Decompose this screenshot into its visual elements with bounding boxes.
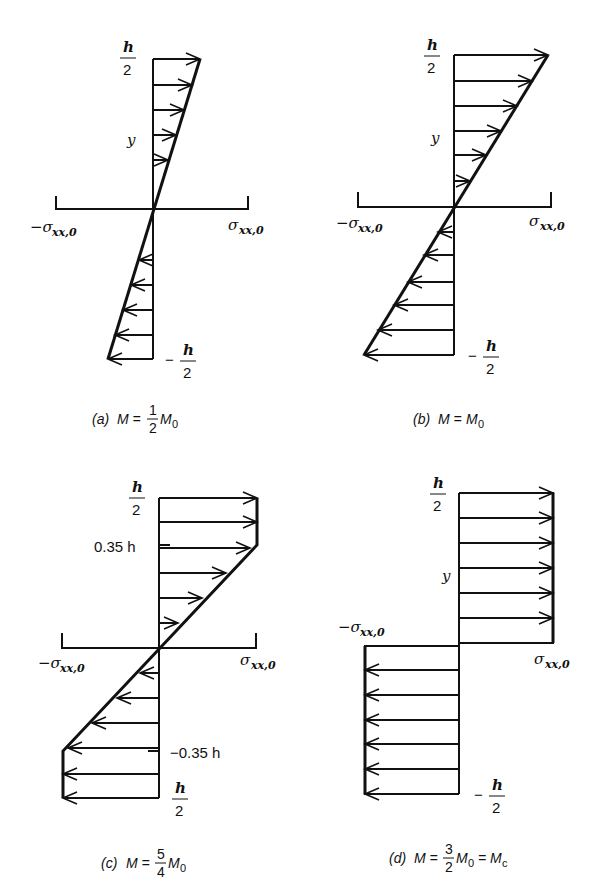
right-axis-label: σ xx,0 — [228, 216, 264, 237]
svg-text:M: M — [466, 411, 478, 427]
svg-text:xx,0: xx,0 — [59, 662, 85, 675]
svg-text:xx,0: xx,0 — [544, 658, 570, 671]
svg-text:−σ: −σ — [338, 618, 362, 636]
svg-text:3: 3 — [445, 841, 453, 857]
svg-text:−: − — [474, 786, 483, 803]
svg-text:M =: M = — [126, 855, 150, 871]
svg-text:0: 0 — [172, 418, 178, 430]
svg-text:2: 2 — [183, 364, 191, 381]
svg-text:0: 0 — [180, 862, 186, 874]
bottom-label: − h 2 — [165, 341, 196, 381]
bottom-label: h 2 — [172, 779, 188, 819]
svg-text:xx,0: xx,0 — [539, 220, 565, 233]
svg-text:M: M — [168, 855, 180, 871]
svg-text:h: h — [183, 341, 194, 359]
svg-text:M: M — [160, 411, 172, 427]
svg-text:(b): (b) — [413, 411, 430, 427]
top-label: h 2 — [129, 478, 145, 518]
caption-a: (a) M = 1 2 M 0 — [92, 402, 178, 436]
svg-text:xx,0: xx,0 — [357, 222, 383, 235]
svg-text:h: h — [486, 337, 497, 355]
svg-text:2: 2 — [427, 59, 435, 76]
panel-b: h 2 y −σ xx,0 σ xx,0 − h 2 (b) M = M 0 — [336, 36, 565, 430]
svg-text:2: 2 — [445, 859, 453, 875]
svg-text:0: 0 — [468, 857, 474, 869]
svg-text:5: 5 — [157, 846, 165, 862]
svg-text:(c): (c) — [101, 855, 117, 871]
svg-text:2: 2 — [149, 420, 157, 436]
svg-text:h: h — [175, 779, 186, 797]
svg-text:2: 2 — [123, 61, 131, 78]
svg-text:σ: σ — [534, 650, 545, 668]
svg-text:xx,0: xx,0 — [359, 626, 385, 639]
lower-knee-label: −0.35 h — [170, 744, 220, 761]
svg-text:−σ: −σ — [336, 214, 360, 232]
svg-text:h: h — [123, 38, 134, 56]
svg-text:(d): (d) — [389, 850, 406, 866]
svg-text:2: 2 — [486, 360, 494, 377]
right-axis-label: σ xx,0 — [240, 651, 276, 672]
caption-b: (b) M = M 0 — [413, 411, 484, 430]
y-label: y — [430, 129, 440, 147]
svg-text:σ: σ — [228, 216, 239, 234]
svg-text:M =: M = — [438, 411, 462, 427]
panel-d: h 2 y −σ xx,0 σ xx,0 − h 2 (d) M = 3 2 M… — [338, 474, 570, 875]
bottom-label: − h 2 — [468, 337, 499, 377]
panel-a: h 2 y −σ xx,0 σ xx,0 − h 2 (a) M = 1 2 M… — [30, 38, 264, 436]
svg-text:0: 0 — [478, 418, 484, 430]
svg-text:2: 2 — [433, 497, 441, 514]
top-label: h 2 — [120, 38, 136, 78]
svg-text:−: − — [165, 351, 174, 368]
svg-text:−: − — [468, 347, 477, 364]
tension-arrows — [454, 49, 548, 187]
svg-text:σ: σ — [529, 212, 540, 230]
svg-text:(a): (a) — [92, 411, 109, 427]
svg-text:= M: = M — [478, 850, 502, 866]
caption-d: (d) M = 3 2 M 0 = M c — [389, 841, 508, 875]
panel-c: h 2 0.35 h −σ xx,0 σ xx,0 −0.35 h h 2 (c… — [38, 478, 276, 880]
stress-distribution-figure: h 2 y −σ xx,0 σ xx,0 − h 2 (a) M = 1 2 M… — [0, 0, 608, 886]
bottom-label: − h 2 — [474, 776, 505, 816]
svg-text:2: 2 — [492, 799, 500, 816]
svg-text:−σ: −σ — [38, 654, 62, 672]
compression-arrows — [108, 254, 153, 365]
svg-text:h: h — [132, 478, 143, 496]
svg-text:h: h — [433, 474, 444, 492]
svg-text:−σ: −σ — [30, 218, 54, 236]
upper-knee-label: 0.35 h — [94, 538, 136, 555]
svg-text:σ: σ — [240, 651, 251, 669]
svg-text:2: 2 — [132, 501, 140, 518]
tension-arrows — [153, 53, 200, 166]
compression-arrows — [364, 226, 454, 361]
y-label: y — [126, 131, 136, 149]
svg-text:h: h — [427, 36, 438, 54]
svg-text:xx,0: xx,0 — [238, 224, 264, 237]
svg-text:h: h — [492, 776, 503, 794]
caption-c: (c) M = 5 4 M 0 — [101, 846, 186, 880]
svg-text:4: 4 — [157, 864, 165, 880]
svg-text:c: c — [502, 857, 508, 869]
svg-text:M =: M = — [117, 411, 141, 427]
left-axis-label: −σ xx,0 — [30, 218, 77, 239]
left-axis-label: −σ xx,0 — [38, 654, 85, 675]
stress-profile — [364, 55, 548, 355]
svg-text:M =: M = — [414, 850, 438, 866]
tension-arrows — [459, 487, 553, 624]
svg-text:2: 2 — [175, 802, 183, 819]
right-axis-label: σ xx,0 — [529, 212, 565, 233]
left-axis-label: −σ xx,0 — [338, 618, 385, 639]
y-label: y — [441, 567, 451, 585]
svg-text:xx,0: xx,0 — [250, 659, 276, 672]
top-label: h 2 — [430, 474, 446, 514]
top-label: h 2 — [424, 36, 440, 76]
svg-text:xx,0: xx,0 — [51, 226, 77, 239]
left-axis-label: −σ xx,0 — [336, 214, 383, 235]
svg-text:M: M — [456, 850, 468, 866]
right-axis-label: σ xx,0 — [534, 650, 570, 671]
svg-text:1: 1 — [149, 402, 157, 418]
compression-arrows — [365, 664, 459, 800]
